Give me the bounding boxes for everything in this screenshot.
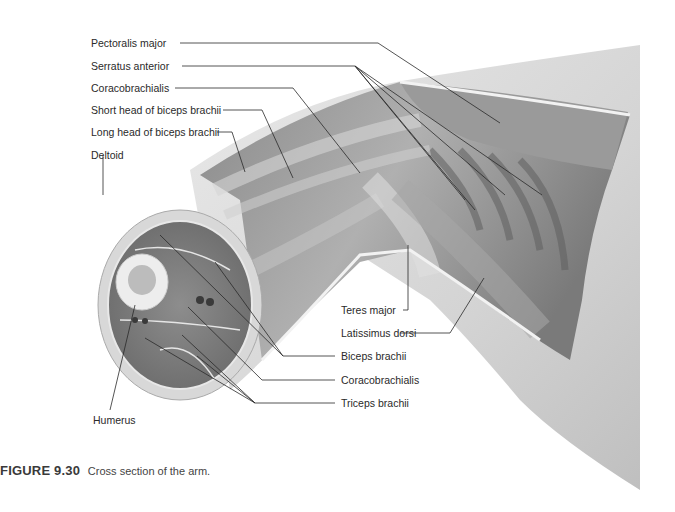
label-pectoralis-major: Pectoralis major	[91, 37, 166, 49]
arm-cross-section	[98, 210, 262, 400]
label-serratus-anterior: Serratus anterior	[91, 60, 169, 72]
label-triceps-brachii: Triceps brachii	[341, 397, 409, 409]
label-latissimus-dorsi: Latissimus dorsi	[341, 327, 416, 339]
label-deltoid: Deltoid	[91, 149, 124, 161]
figure-number: FIGURE 9.30	[0, 463, 80, 478]
label-humerus: Humerus	[93, 414, 136, 426]
label-biceps-brachii: Biceps brachii	[341, 350, 406, 362]
label-short-head-biceps: Short head of biceps brachii	[91, 104, 221, 116]
label-coracobrachialis-bottom: Coracobrachialis	[341, 374, 419, 386]
figure-caption-text: Cross section of the arm.	[88, 465, 210, 477]
figure-caption: FIGURE 9.30 Cross section of the arm.	[0, 463, 210, 478]
arm-cross-section-illustration	[0, 0, 675, 512]
label-teres-major: Teres major	[341, 304, 396, 316]
label-long-head-biceps: Long head of biceps brachii	[91, 126, 219, 138]
exposed-muscles	[200, 82, 630, 360]
label-coracobrachialis-top: Coracobrachialis	[91, 82, 169, 94]
